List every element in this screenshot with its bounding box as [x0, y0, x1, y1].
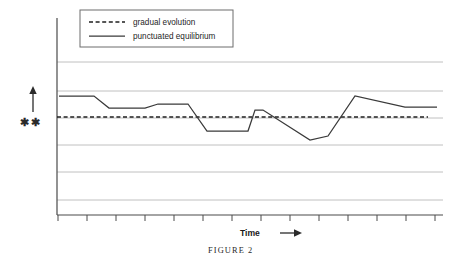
- legend-box: [80, 10, 233, 47]
- figure-caption: FIGURE 2: [208, 246, 253, 255]
- x-axis-label: Time: [240, 228, 260, 238]
- punctuated-equilibrium-chart: gradual evolution punctuated equilibrium…: [0, 0, 466, 266]
- chart-legend: gradual evolution punctuated equilibrium: [80, 10, 233, 47]
- y-axis-marker-label: ✱✱: [20, 116, 41, 128]
- legend-label-punctuated-equilibrium: punctuated equilibrium: [133, 32, 216, 41]
- figure-container: gradual evolution punctuated equilibrium…: [0, 0, 466, 266]
- legend-label-gradual-evolution: gradual evolution: [133, 18, 196, 27]
